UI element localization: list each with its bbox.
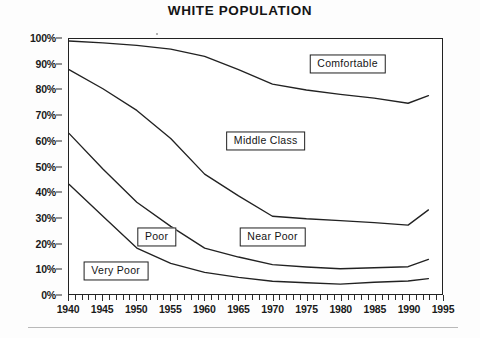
x-tick-label: 1980 [329,303,352,315]
x-minor-tick [436,295,437,300]
x-minor-tick [286,295,287,300]
y-tick-mark [56,269,62,270]
x-axis-minor-ticks [68,295,443,302]
x-minor-tick [443,295,444,301]
x-minor-tick [157,295,158,300]
y-tick-label: 0% [41,289,56,301]
y-axis: 100%90%80%70%60%50%40%30%20%10%0% [8,38,62,295]
x-minor-tick [375,295,376,301]
y-tick-mark [56,38,62,39]
y-tick-mark [56,115,62,116]
y-tick-mark [56,217,62,218]
y-tick-label: 70% [36,109,56,121]
x-minor-tick [409,295,410,301]
x-tick-label: 1970 [261,303,284,315]
series-label-middle-class: Middle Class [226,131,306,150]
x-minor-tick [307,295,308,301]
plot-area [68,38,443,295]
series-line [69,133,428,268]
y-tick-mark [56,63,62,64]
x-minor-tick [361,295,362,300]
x-minor-tick [423,295,424,300]
y-tick-label: 40% [36,186,56,198]
x-minor-tick [368,295,369,300]
x-tick-label: 1955 [159,303,182,315]
y-tick-mark [56,140,62,141]
y-tick-label: 100% [30,32,56,44]
y-tick-label: 60% [36,135,56,147]
x-minor-tick [354,295,355,300]
x-minor-tick [313,295,314,300]
series-label-very-poor: Very Poor [83,261,148,280]
x-minor-tick [88,295,89,300]
x-minor-tick [150,295,151,300]
x-minor-tick [225,295,226,300]
y-tick-mark [56,89,62,90]
x-minor-tick [95,295,96,300]
x-minor-tick [191,295,192,300]
x-minor-tick [102,295,103,301]
x-tick-label: 1975 [295,303,318,315]
chart-title: WHITE POPULATION [0,3,480,18]
x-minor-tick [252,295,253,300]
x-minor-tick [211,295,212,300]
x-minor-tick [388,295,389,300]
x-minor-tick [116,295,117,300]
x-minor-tick [293,295,294,300]
x-minor-tick [416,295,417,300]
x-minor-tick [75,295,76,300]
x-minor-tick [170,295,171,301]
y-tick-label: 90% [36,58,56,70]
x-minor-tick [177,295,178,300]
x-minor-tick [429,295,430,300]
x-tick-label: 1940 [57,303,80,315]
y-tick-label: 20% [36,238,56,250]
x-minor-tick [341,295,342,301]
x-minor-tick [82,295,83,300]
x-minor-tick [245,295,246,300]
x-minor-tick [395,295,396,300]
x-minor-tick [238,295,239,301]
x-minor-tick [136,295,137,301]
y-tick-label: 50% [36,161,56,173]
x-minor-tick [320,295,321,300]
x-minor-tick [143,295,144,300]
x-minor-tick [348,295,349,300]
y-tick-mark [56,192,62,193]
x-tick-label: 1995 [432,303,455,315]
series-label-poor: Poor [137,228,176,247]
y-tick-mark [56,166,62,167]
x-minor-tick [382,295,383,300]
x-tick-label: 1945 [91,303,114,315]
x-minor-tick [266,295,267,300]
x-minor-tick [300,295,301,300]
x-minor-tick [327,295,328,300]
y-tick-mark [56,243,62,244]
x-tick-label: 1985 [364,303,387,315]
x-tick-label: 1960 [193,303,216,315]
x-minor-tick [279,295,280,300]
x-minor-tick [232,295,233,300]
x-minor-tick [129,295,130,300]
x-tick-label: 1990 [398,303,421,315]
x-minor-tick [402,295,403,300]
y-tick-label: 80% [36,83,56,95]
page-divider-rule [28,327,458,328]
x-minor-tick [184,295,185,300]
series-label-comfortable: Comfortable [309,54,386,73]
y-tick-label: 10% [36,263,56,275]
x-tick-label: 1965 [227,303,250,315]
x-minor-tick [109,295,110,300]
x-minor-tick [259,295,260,300]
x-minor-tick [198,295,199,300]
y-tick-mark [56,295,62,296]
x-minor-tick [273,295,274,301]
x-axis: 1940194519501955196019651970197519801985… [0,303,480,319]
x-minor-tick [334,295,335,300]
y-tick-label: 30% [36,212,56,224]
series-label-near-poor: Near Poor [239,228,306,247]
chart-container: WHITE POPULATION 100%90%80%70%60%50%40%3… [0,0,480,338]
x-minor-tick [204,295,205,301]
x-minor-tick [68,295,69,301]
series-lines [69,39,442,294]
